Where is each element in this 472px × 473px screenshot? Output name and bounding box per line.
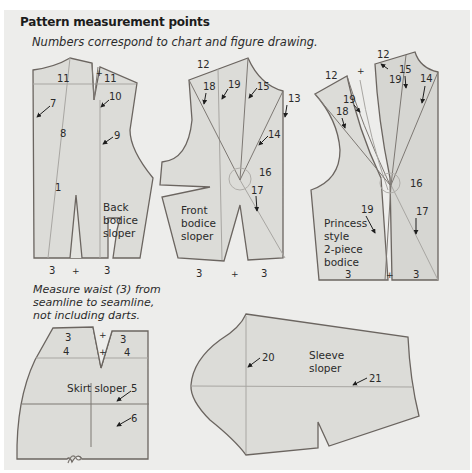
note-line: not including darts. [33, 309, 183, 322]
note-line: seamline to seamline, [33, 296, 183, 309]
point-12: 12 [197, 59, 210, 70]
point-10: 10 [109, 91, 122, 102]
point-3: 3 [196, 268, 202, 279]
point-16: 16 [259, 167, 272, 178]
piece-label: bodice [103, 214, 138, 226]
plus-marker: + [231, 269, 239, 279]
plus-marker: + [99, 347, 107, 357]
pattern-drawings: 11 + 11 7 10 8 9 1 Back bodice sloper 3 … [0, 0, 472, 473]
piece-label: Skirt sloper [67, 382, 127, 394]
point-7: 7 [50, 98, 56, 109]
point-18: 18 [336, 106, 349, 117]
point-16: 16 [410, 178, 423, 189]
front-bodice-sloper: 12 18 19 15 13 14 16 17 Front bodice slo… [160, 58, 301, 279]
point-3: 3 [261, 268, 267, 279]
point-3: 3 [413, 269, 419, 280]
point-19: 19 [361, 204, 374, 215]
point-4: 4 [63, 346, 69, 357]
piece-label: Sleeve [309, 349, 344, 361]
point-21: 21 [369, 373, 382, 384]
point-18: 18 [203, 81, 216, 92]
princess-bodice: 12 + 12 15 19 14 19 18 16 19 17 Princess… [311, 49, 438, 280]
point-19: 19 [228, 79, 241, 90]
note-line: Measure waist (3) from [33, 283, 183, 296]
point-13: 13 [288, 93, 301, 104]
piece-label: sloper [103, 227, 136, 239]
plus-marker: + [72, 266, 80, 276]
point-6: 6 [131, 413, 137, 424]
piece-label: 2-piece [324, 243, 363, 255]
piece-label: Princess [324, 217, 367, 229]
back-bodice-sloper: 11 + 11 7 10 8 9 1 Back bodice sloper 3 … [33, 58, 153, 276]
point-12: 12 [377, 49, 390, 60]
piece-label: Front [181, 204, 208, 216]
point-9: 9 [114, 130, 120, 141]
point-14: 14 [420, 73, 433, 84]
point-1: 1 [55, 182, 61, 193]
point-4: 4 [124, 347, 130, 358]
piece-label: bodice [181, 217, 216, 229]
point-20: 20 [262, 352, 275, 363]
piece-label: sloper [309, 362, 342, 374]
piece-label: bodice [324, 256, 359, 268]
point-3: 3 [345, 269, 351, 280]
plus-marker: + [386, 270, 394, 280]
point-19: 19 [343, 94, 356, 105]
waist-measurement-note: Measure waist (3) from seamline to seaml… [33, 283, 183, 322]
point-17: 17 [416, 206, 429, 217]
sleeve-sloper: 20 Sleeve sloper 21 [191, 314, 419, 455]
point-12: 12 [325, 70, 338, 81]
point-8: 8 [60, 128, 66, 139]
plus-marker: + [357, 66, 365, 76]
point-14: 14 [268, 129, 281, 140]
point-3: 3 [120, 334, 126, 345]
point-17: 17 [251, 185, 264, 196]
point-15: 15 [257, 81, 270, 92]
piece-label: sloper [181, 230, 214, 242]
skirt-sloper: 3 + 3 4 + 4 Skirt sloper 5 6 [17, 327, 149, 463]
point-3: 3 [65, 332, 71, 343]
point-5: 5 [131, 383, 137, 394]
plus-marker: + [96, 69, 103, 78]
point-3: 3 [49, 265, 55, 276]
point-11: 11 [57, 73, 70, 84]
plus-marker: + [99, 330, 107, 340]
piece-label: style [324, 230, 349, 242]
piece-label: Back [103, 201, 129, 213]
point-19: 19 [389, 74, 402, 85]
point-11: 11 [104, 73, 117, 84]
point-3: 3 [104, 265, 110, 276]
